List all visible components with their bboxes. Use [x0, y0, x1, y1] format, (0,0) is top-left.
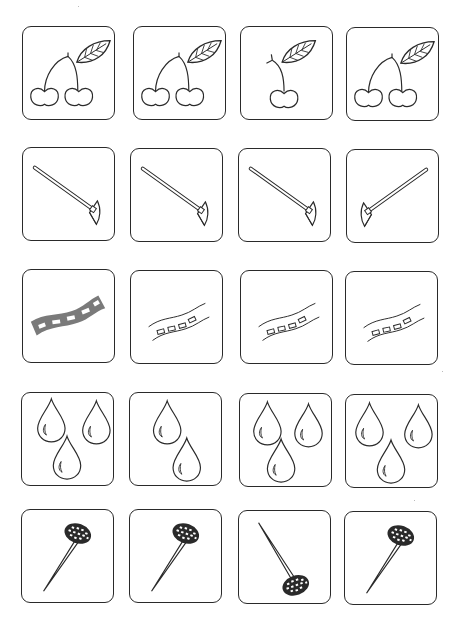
one-cherry-icon	[241, 27, 332, 119]
two-cherries-icon	[23, 27, 114, 119]
card-hoe-4[interactable]	[346, 149, 439, 243]
hoe-icon	[131, 149, 222, 241]
road-outline-icon	[346, 272, 437, 364]
three-drops-icon	[346, 395, 437, 487]
pin-head-up-icon	[22, 510, 113, 602]
card-road-4[interactable]	[345, 271, 438, 365]
card-cherries-1[interactable]	[22, 26, 115, 120]
card-drops-4[interactable]	[345, 394, 438, 488]
pin-head-up-icon	[345, 512, 436, 604]
hoe-icon	[23, 148, 114, 240]
card-cherries-4[interactable]	[346, 27, 439, 121]
two-drops-icon	[130, 393, 221, 485]
card-drops-3[interactable]	[239, 393, 332, 487]
card-hoe-1[interactable]	[22, 147, 115, 241]
pin-head-up-icon	[130, 510, 221, 602]
hoe-icon	[239, 149, 330, 241]
card-road-3[interactable]	[240, 270, 333, 364]
scan-speck	[442, 371, 443, 372]
two-cherries-icon	[134, 27, 225, 119]
card-road-1[interactable]	[22, 269, 115, 363]
two-cherries-icon	[347, 28, 438, 120]
three-drops-icon	[22, 393, 113, 485]
card-pin-1[interactable]	[21, 509, 114, 603]
scan-speck	[414, 500, 415, 501]
pin-head-down-icon	[239, 511, 330, 603]
card-pin-2[interactable]	[129, 509, 222, 603]
card-cherries-2[interactable]	[133, 26, 226, 120]
road-outline-icon	[131, 271, 222, 363]
card-drops-2[interactable]	[129, 392, 222, 486]
hoe-mirrored-icon	[347, 150, 438, 242]
card-cherries-3[interactable]	[240, 26, 333, 120]
road-outline-icon	[241, 271, 332, 363]
card-hoe-2[interactable]	[130, 148, 223, 242]
card-pin-3[interactable]	[238, 510, 331, 604]
three-drops-icon	[240, 394, 331, 486]
card-drops-1[interactable]	[21, 392, 114, 486]
road-filled-icon	[23, 270, 114, 362]
scan-speck	[78, 6, 79, 7]
card-road-2[interactable]	[130, 270, 223, 364]
card-hoe-3[interactable]	[238, 148, 331, 242]
card-pin-4[interactable]	[344, 511, 437, 605]
